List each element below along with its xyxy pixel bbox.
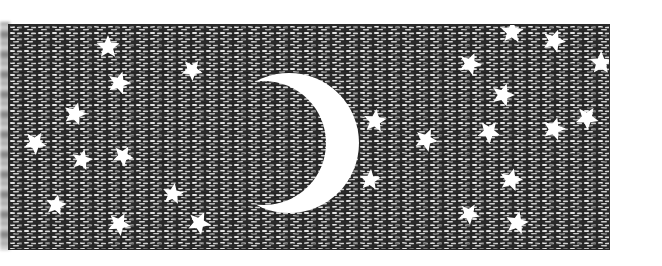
- night-sky-illustration: [8, 24, 610, 250]
- sky-canvas: [9, 25, 610, 250]
- moon-crescent-shape: [219, 73, 359, 213]
- crescent-moon: [219, 73, 359, 213]
